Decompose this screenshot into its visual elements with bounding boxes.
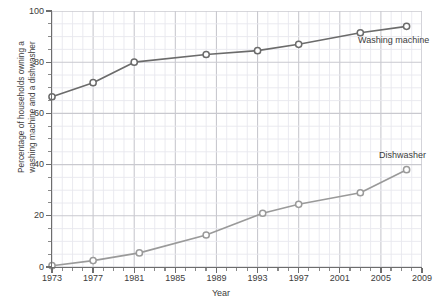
y-tick [46, 113, 51, 114]
y-axis-title-line-2: washing machine and a dishwasher [27, 2, 38, 212]
y-tick [48, 74, 52, 75]
x-tick [257, 268, 258, 273]
x-tick-label: 1977 [73, 274, 113, 283]
y-tick-label: 20 [0, 211, 44, 220]
x-tick [411, 268, 412, 272]
series-label-washing-machine: Washing machine [358, 35, 429, 45]
x-tick [226, 268, 227, 272]
data-point-dishwasher [357, 190, 363, 196]
data-point-washing-machine [403, 23, 409, 29]
x-tick [72, 268, 73, 272]
y-axis-title-line-1: Percentage of households owning a [16, 2, 27, 212]
x-tick [123, 268, 124, 272]
data-point-dishwasher [90, 258, 96, 264]
data-point-washing-machine [203, 51, 209, 57]
x-tick [144, 268, 145, 272]
data-point-dishwasher [136, 250, 142, 256]
y-tick [48, 126, 52, 127]
line-chart: 0204060801001973197719811985198919931997… [0, 0, 442, 303]
x-tick-label: 2005 [361, 274, 401, 283]
x-tick [247, 268, 248, 272]
x-tick [205, 268, 206, 272]
x-tick [267, 268, 268, 272]
y-tick [48, 36, 52, 37]
y-tick [48, 87, 52, 88]
x-tick [195, 268, 196, 272]
y-tick [48, 177, 52, 178]
x-tick [92, 268, 93, 273]
x-tick [185, 268, 186, 272]
x-tick [401, 268, 402, 272]
y-tick [46, 266, 51, 267]
x-tick [113, 268, 114, 272]
data-point-washing-machine [90, 80, 96, 86]
data-point-dishwasher [203, 232, 209, 238]
y-tick [48, 23, 52, 24]
data-point-washing-machine [131, 59, 137, 65]
y-tick-label: 0 [0, 263, 44, 272]
x-tick [298, 268, 299, 273]
x-tick [277, 268, 278, 272]
x-tick [82, 268, 83, 272]
x-tick-label: 1985 [155, 274, 195, 283]
data-point-dishwasher [296, 201, 302, 207]
x-tick-label: 1997 [279, 274, 319, 283]
y-axis-title: Percentage of households owning a washin… [16, 2, 38, 212]
x-tick [216, 268, 217, 273]
y-tick [46, 10, 51, 11]
x-tick [103, 268, 104, 272]
data-point-washing-machine [296, 41, 302, 47]
y-tick [48, 100, 52, 101]
data-point-dishwasher [403, 167, 409, 173]
x-axis-title: Year [0, 288, 442, 298]
y-tick [48, 49, 52, 50]
x-tick [175, 268, 176, 273]
data-point-washing-machine [254, 48, 260, 54]
x-tick-label: 1981 [114, 274, 154, 283]
x-tick [380, 268, 381, 273]
x-tick-label: 2001 [320, 274, 360, 283]
x-tick [390, 268, 391, 272]
x-tick [164, 268, 165, 272]
x-tick [421, 268, 422, 273]
y-tick [46, 164, 51, 165]
series-layer [46, 5, 428, 273]
x-tick [339, 268, 340, 273]
x-tick [349, 268, 350, 272]
x-tick [134, 268, 135, 273]
x-tick [62, 268, 63, 272]
x-tick [308, 268, 309, 272]
y-tick [48, 241, 52, 242]
y-tick [46, 62, 51, 63]
x-tick [51, 268, 52, 273]
y-tick [48, 151, 52, 152]
y-tick [48, 190, 52, 191]
x-tick [236, 268, 237, 272]
y-tick [48, 202, 52, 203]
x-tick-label: 1973 [32, 274, 72, 283]
x-tick-label: 2009 [402, 274, 442, 283]
plot-area [52, 11, 422, 267]
x-tick [288, 268, 289, 272]
data-point-dishwasher [260, 210, 266, 216]
series-label-dishwasher: Dishwasher [379, 150, 426, 160]
x-tick [154, 268, 155, 272]
x-tick-label: 1989 [196, 274, 236, 283]
y-tick [48, 254, 52, 255]
x-tick [370, 268, 371, 272]
y-tick [46, 215, 51, 216]
x-tick [319, 268, 320, 272]
y-tick [48, 138, 52, 139]
x-tick-label: 1993 [238, 274, 278, 283]
x-tick [329, 268, 330, 272]
y-axis-line [51, 10, 52, 268]
y-tick [48, 228, 52, 229]
x-tick [360, 268, 361, 272]
